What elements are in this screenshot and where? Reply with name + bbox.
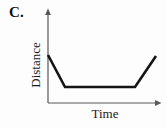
- y-axis-label: Distance: [29, 25, 43, 105]
- y-axis-arrowhead: [45, 9, 51, 16]
- data-line-distance-vs-time: [48, 55, 156, 87]
- x-axis-arrowhead: [155, 100, 162, 106]
- chart-figure: C. Distance Time: [0, 0, 167, 129]
- x-axis-label: Time: [68, 107, 142, 121]
